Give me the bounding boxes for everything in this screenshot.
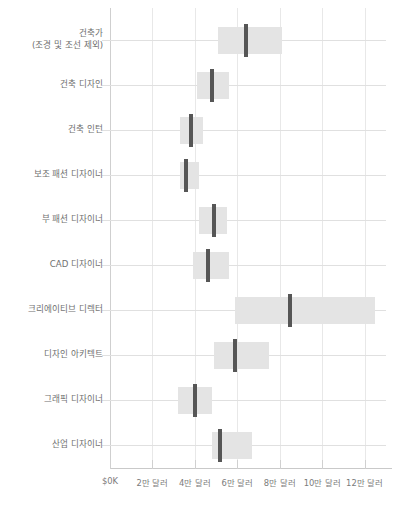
category-label: 그래픽 디자이너 — [0, 393, 103, 406]
box-range — [235, 297, 375, 324]
category-label: 건축 디자인 — [0, 78, 103, 91]
x-axis-tick — [110, 460, 111, 469]
category-label: 건축 인턴 — [0, 123, 103, 136]
x-axis-tick — [195, 460, 196, 469]
category-label: 부 패션 디자이너 — [0, 213, 103, 226]
category-gridline — [102, 265, 386, 266]
category-label-line: 크리에이티브 디렉터 — [0, 303, 103, 316]
category-label-line: (조경 및 조선 제외) — [0, 39, 103, 52]
category-label-line: 건축 디자인 — [0, 78, 103, 91]
category-label: 크리에이티브 디렉터 — [0, 303, 103, 316]
box-range — [193, 252, 229, 279]
median-marker — [218, 429, 222, 462]
median-marker — [233, 339, 237, 372]
category-label-line: 그래픽 디자이너 — [0, 393, 103, 406]
median-marker — [184, 159, 188, 192]
median-marker — [288, 294, 292, 327]
category-gridline — [102, 220, 386, 221]
category-gridline — [102, 85, 386, 86]
median-marker — [212, 204, 216, 237]
median-marker — [206, 249, 210, 282]
category-label-line: 보조 패션 디자이너 — [0, 168, 103, 181]
category-gridline — [102, 400, 386, 401]
box-range — [218, 27, 282, 54]
category-label-line: 산업 디자이너 — [0, 438, 103, 451]
category-label: 디자인 아키텍트 — [0, 348, 103, 361]
x-axis-tick-label: 10만 달러 — [304, 476, 341, 488]
category-gridline — [102, 175, 386, 176]
x-axis-tick — [237, 460, 238, 469]
category-label-line: 부 패션 디자이너 — [0, 213, 103, 226]
box-range — [180, 162, 199, 189]
category-gridline — [102, 130, 386, 131]
category-label: 산업 디자이너 — [0, 438, 103, 451]
x-gridline — [322, 8, 323, 468]
x-axis-tick — [322, 460, 323, 469]
box-plot-chart: $0K2만 달러4만 달러6만 달러8만 달러10만 달러12만 달러건축가(조… — [0, 0, 418, 506]
category-label-line: 건축가 — [0, 27, 103, 40]
category-label-line: 디자인 아키텍트 — [0, 348, 103, 361]
x-gridline — [152, 8, 153, 468]
box-range — [214, 342, 269, 369]
x-axis-tick-label: 2만 달러 — [136, 476, 168, 488]
category-label: 건축가(조경 및 조선 제외) — [0, 27, 103, 52]
x-axis-tick-label: $0K — [102, 476, 118, 486]
category-label: CAD 디자이너 — [0, 258, 103, 271]
x-axis-tick — [152, 460, 153, 469]
x-gridline — [365, 8, 366, 468]
x-axis-tick-label: 8만 달러 — [264, 476, 296, 488]
x-axis-tick-label: 12만 달러 — [346, 476, 383, 488]
median-marker — [210, 69, 214, 102]
median-marker — [193, 384, 197, 417]
x-axis-tick — [365, 460, 366, 469]
median-marker — [244, 24, 248, 57]
median-marker — [189, 114, 193, 147]
x-axis-tick — [280, 460, 281, 469]
x-gridline — [237, 8, 238, 468]
category-label-line: 건축 인턴 — [0, 123, 103, 136]
x-axis-tick-label: 6만 달러 — [221, 476, 253, 488]
category-label: 보조 패션 디자이너 — [0, 168, 103, 181]
plot-area — [110, 8, 386, 468]
category-label-line: CAD 디자이너 — [0, 258, 103, 271]
x-gridline — [110, 8, 111, 468]
x-gridline — [280, 8, 281, 468]
x-axis-tick-label: 4만 달러 — [179, 476, 211, 488]
